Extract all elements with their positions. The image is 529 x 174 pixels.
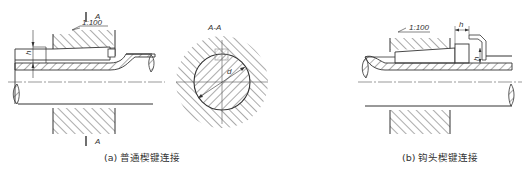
section-mark-top: A [94,12,100,21]
panel-b-hook-head-wedge-key: 1:100 h h [358,20,522,134]
dimension-h-label: h [24,50,33,55]
wedge-key-figure: h 1:100 A A A-A d [0,0,529,174]
caption-b: (b) 钩头楔键连接 [402,150,478,164]
section-title: A-A [207,23,221,32]
section-mark-bottom: A [94,137,100,146]
taper-label-b: 1:100 [409,23,430,32]
dimension-h-top: h [459,20,464,29]
panel-a-ordinary-wedge-key: h 1:100 A A [8,12,165,146]
caption-a: (a) 普通楔键连接 [104,150,180,164]
section-view-a-a: A-A d [176,23,268,128]
dimension-h-side: h [472,56,481,61]
dimension-d-label: d [227,67,232,76]
